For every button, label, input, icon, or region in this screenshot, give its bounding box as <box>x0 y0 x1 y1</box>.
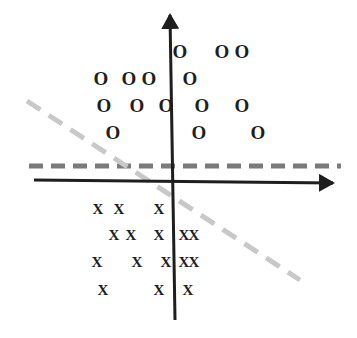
o-marker: O <box>251 122 266 143</box>
o-marker: O <box>215 41 230 62</box>
scatter-diagram: OOOOOOOOOOOOOOO XXXXXXXXXXXXXXXX <box>0 0 357 338</box>
x-marker: X <box>154 201 165 217</box>
o-marker: O <box>235 41 250 62</box>
x-marker: X <box>98 282 109 298</box>
diagram-canvas: OOOOOOOOOOOOOOO XXXXXXXXXXXXXXXX <box>0 0 357 338</box>
x-marker: X <box>92 254 103 270</box>
o-marker: O <box>192 122 207 143</box>
class-x-points: XXXXXXXXXXXXXXXX <box>92 201 200 298</box>
o-marker: O <box>97 95 112 116</box>
o-marker: O <box>130 95 145 116</box>
x-axis-arrow <box>34 180 333 183</box>
x-marker: X <box>109 227 120 243</box>
o-marker: O <box>106 122 121 143</box>
o-marker: O <box>159 95 174 116</box>
x-marker: X <box>114 201 125 217</box>
x-marker: X <box>189 227 200 243</box>
o-marker: O <box>173 41 188 62</box>
o-marker: O <box>183 68 198 89</box>
x-marker: X <box>126 227 137 243</box>
o-marker: O <box>235 95 250 116</box>
x-marker: X <box>161 254 172 270</box>
x-marker: X <box>154 282 165 298</box>
x-marker: X <box>189 254 200 270</box>
o-marker: O <box>94 68 109 89</box>
x-marker: X <box>93 201 104 217</box>
x-marker: X <box>132 254 143 270</box>
o-marker: O <box>142 68 157 89</box>
o-marker: O <box>122 68 137 89</box>
x-marker: X <box>183 282 194 298</box>
o-marker: O <box>195 95 210 116</box>
x-marker: X <box>154 227 165 243</box>
class-o-points: OOOOOOOOOOOOOOO <box>94 41 266 143</box>
